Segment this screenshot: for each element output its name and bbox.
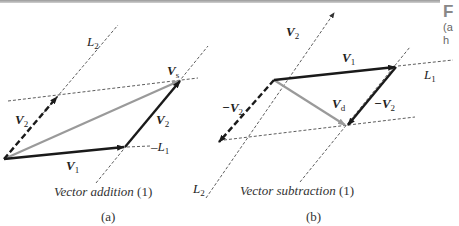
label-L2: L2 bbox=[86, 34, 99, 51]
panel-tag-a: (a) bbox=[101, 209, 115, 224]
label-Vd: Vd bbox=[332, 96, 346, 113]
label-V1-b: V1 bbox=[342, 50, 355, 67]
label-V2-solid: V2 bbox=[156, 112, 169, 129]
label-Vs: Vs bbox=[167, 63, 180, 80]
vector-V2-solid bbox=[125, 81, 180, 147]
label-L1-b: L1 bbox=[423, 67, 436, 84]
line-lower-parallel bbox=[224, 117, 415, 140]
panel-b: V2 V1 L1 −V2 Vd −V2 L2 Vector subtractio… bbox=[192, 13, 453, 224]
label-negV2-dashed: −V2 bbox=[222, 100, 243, 117]
panel-tag-b: (b) bbox=[306, 209, 321, 224]
vector-V2-dashed bbox=[4, 97, 57, 159]
label-V2-b: V2 bbox=[286, 24, 299, 41]
side-text-line3: h bbox=[443, 34, 449, 46]
label-L1: –L1 bbox=[150, 139, 169, 156]
label-L2-b: L2 bbox=[192, 181, 205, 198]
label-negV2-solid: −V2 bbox=[374, 96, 395, 113]
side-text-line2: (a bbox=[443, 21, 453, 33]
vector-diagram: L2 Vs V2 V2 –L1 V1 Vector addition (1) (… bbox=[0, 0, 459, 226]
label-V2-dashed: V2 bbox=[15, 112, 28, 129]
line-L1-stub bbox=[127, 146, 150, 147]
panel-a: L2 Vs V2 V2 –L1 V1 Vector addition (1) (… bbox=[4, 25, 208, 224]
line-L1 bbox=[398, 60, 453, 66]
vector-V1 bbox=[4, 147, 124, 159]
caption-a: Vector addition (1) bbox=[54, 184, 152, 199]
side-text-heading: F bbox=[443, 2, 453, 22]
caption-b: Vector subtraction (1) bbox=[240, 183, 354, 198]
line-upper-parallel bbox=[8, 78, 198, 101]
label-V1: V1 bbox=[66, 158, 79, 175]
